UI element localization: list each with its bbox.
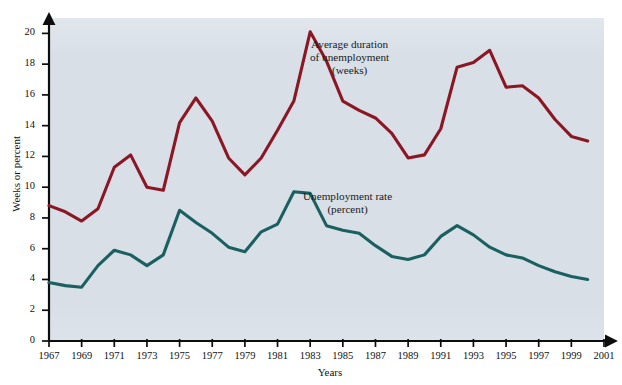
annotation-unemployment-rate: Unemployment rate (percent) — [303, 190, 392, 216]
annotation-average-duration: Average duration of unemployment (weeks) — [310, 38, 389, 78]
x-axis-title: Years — [295, 366, 365, 378]
y-tick-label: 2 — [9, 303, 35, 314]
annotation-duration-line3: (weeks) — [310, 64, 389, 77]
y-tick-label: 6 — [9, 242, 35, 253]
y-tick-label: 20 — [9, 26, 35, 37]
y-tick-label: 18 — [9, 57, 35, 68]
y-tick-label: 4 — [9, 272, 35, 283]
x-tick-label: 2001 — [584, 350, 622, 361]
annotation-rate-line1: Unemployment rate — [303, 190, 392, 203]
y-axis-title: Weeks or percent — [10, 114, 22, 234]
annotation-rate-line2: (percent) — [303, 203, 392, 216]
annotation-duration-line1: Average duration — [310, 38, 389, 51]
y-tick-label: 0 — [9, 334, 35, 345]
unemployment-chart: 02468101214161820 1967196919711973197519… — [0, 0, 622, 385]
annotation-duration-line2: of unemployment — [310, 51, 389, 64]
y-tick-label: 16 — [9, 88, 35, 99]
